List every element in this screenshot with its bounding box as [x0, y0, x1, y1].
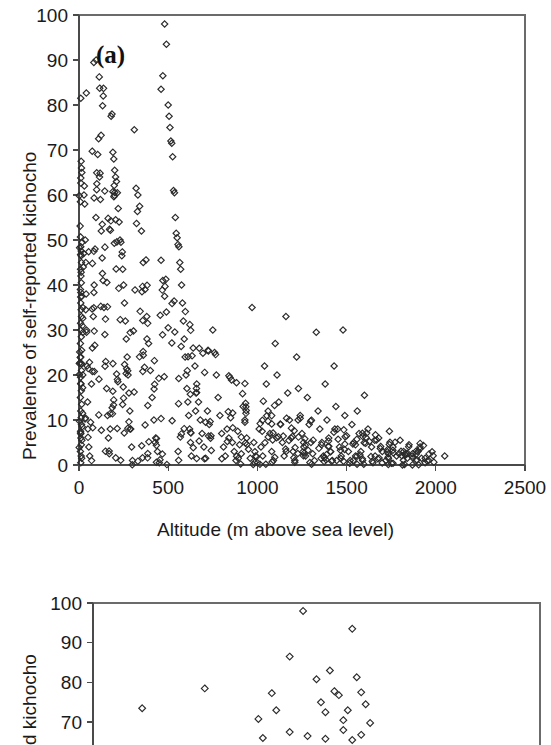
data-point-marker — [260, 398, 266, 404]
data-point-marker — [151, 417, 157, 423]
data-point-marker — [274, 372, 280, 378]
data-point-marker — [110, 360, 116, 366]
data-point-marker — [133, 220, 139, 226]
data-point-marker — [113, 266, 119, 272]
data-point-marker — [259, 735, 266, 742]
data-point-marker — [179, 300, 185, 306]
y-tick-label: 100 — [36, 5, 68, 26]
data-point-marker — [120, 266, 126, 272]
data-point-marker — [102, 244, 108, 250]
data-point-marker — [89, 148, 95, 154]
data-point-marker — [110, 388, 116, 394]
data-point-marker — [161, 21, 167, 27]
data-point-marker — [354, 408, 360, 414]
data-point-marker — [361, 392, 367, 398]
y-tick-label: 0 — [57, 455, 68, 476]
data-point-marker — [268, 448, 274, 454]
y-tick-label: 70 — [61, 712, 82, 733]
data-point-marker — [322, 735, 329, 742]
data-point-marker — [251, 439, 257, 445]
data-point-marker — [335, 436, 341, 442]
data-point-marker — [98, 228, 104, 234]
data-point-marker — [204, 408, 210, 414]
y-tick-label: 60 — [47, 185, 68, 206]
data-point-marker — [77, 199, 83, 205]
data-point-marker — [220, 444, 226, 450]
data-point-marker — [99, 270, 105, 276]
data-point-marker — [201, 685, 208, 692]
plot-frame — [93, 603, 540, 745]
data-point-marker — [190, 345, 196, 351]
data-point-marker — [124, 354, 130, 360]
panel-b-plot: 708090100 — [0, 580, 551, 745]
data-point-marker — [149, 394, 155, 400]
data-point-marker — [172, 214, 178, 220]
data-point-marker — [111, 156, 117, 162]
panel-b: 708090100 (b) — [0, 580, 551, 745]
data-point-marker — [178, 343, 184, 349]
data-point-marker — [163, 309, 169, 315]
panel-a: 0102030405060708090100050010001500200025… — [0, 0, 551, 580]
data-point-marker — [147, 367, 153, 373]
data-point-marker — [98, 427, 104, 433]
data-point-marker — [186, 412, 192, 418]
data-point-marker — [386, 428, 392, 434]
data-point-marker — [157, 312, 163, 318]
y-tick-label: 10 — [47, 410, 68, 431]
data-point-marker — [133, 185, 139, 191]
data-point-marker — [115, 205, 121, 211]
data-point-marker — [260, 453, 266, 459]
data-point-marker — [77, 340, 83, 346]
data-point-marker — [165, 102, 171, 108]
data-point-marker — [344, 707, 351, 714]
panel-a-x-axis-title: Altitude (m above sea level) — [0, 519, 551, 541]
data-point-marker — [269, 421, 275, 427]
data-point-marker — [142, 422, 148, 428]
y-tick-label: 70 — [47, 140, 68, 161]
data-point-marker — [268, 690, 275, 697]
data-point-marker — [340, 327, 346, 333]
data-point-marker — [349, 421, 355, 427]
data-point-marker — [177, 259, 183, 265]
data-point-marker — [201, 369, 207, 375]
data-point-marker — [313, 329, 319, 335]
data-point-marker — [184, 385, 190, 391]
data-point-marker — [279, 439, 285, 445]
y-tick-label: 90 — [61, 632, 82, 653]
panel-b-series — [139, 608, 374, 744]
data-point-marker — [349, 737, 356, 744]
data-point-marker — [304, 394, 310, 400]
data-point-marker — [201, 444, 207, 450]
data-point-marker — [91, 328, 97, 334]
plot-frame — [79, 15, 525, 465]
data-point-marker — [138, 228, 144, 234]
data-point-marker — [242, 380, 248, 386]
data-point-marker — [322, 381, 328, 387]
data-point-marker — [192, 408, 198, 414]
data-point-marker — [249, 304, 255, 310]
data-point-marker — [195, 399, 201, 405]
data-point-marker — [442, 453, 448, 459]
y-tick-label: 20 — [47, 365, 68, 386]
data-point-marker — [255, 716, 262, 723]
figure-container: 0102030405060708090100050010001500200025… — [0, 0, 551, 745]
data-point-marker — [317, 426, 323, 432]
x-tick-label: 2000 — [415, 477, 457, 498]
data-point-marker — [367, 720, 374, 727]
data-point-marker — [215, 394, 221, 400]
data-point-marker — [273, 707, 280, 714]
data-point-marker — [185, 399, 191, 405]
data-point-marker — [135, 192, 141, 198]
y-tick-label: 90 — [47, 50, 68, 71]
data-point-marker — [213, 372, 219, 378]
data-point-marker — [99, 221, 105, 227]
data-point-marker — [145, 402, 151, 408]
data-point-marker — [331, 363, 337, 369]
data-point-marker — [304, 733, 311, 740]
data-point-marker — [263, 381, 269, 387]
data-point-marker — [160, 73, 166, 79]
x-tick-label: 500 — [152, 477, 184, 498]
y-tick-label: 100 — [50, 593, 82, 614]
data-point-marker — [187, 321, 193, 327]
y-tick-label: 80 — [47, 95, 68, 116]
